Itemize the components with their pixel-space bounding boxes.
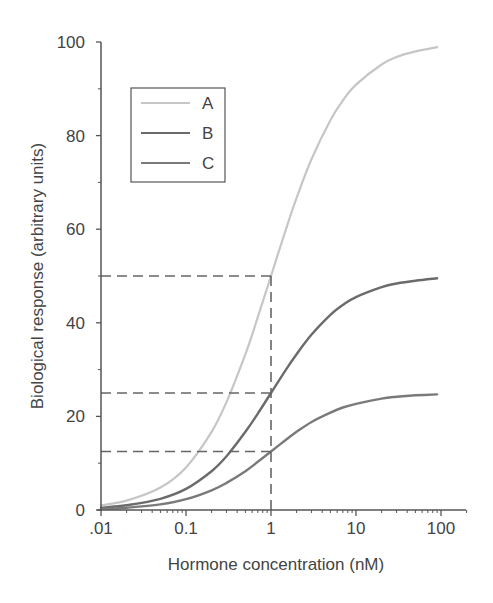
y-axis-label: Biological response (arbitrary units)	[28, 143, 47, 409]
y-tick-label: 0	[76, 501, 85, 520]
legend: A B C	[131, 88, 225, 182]
axes: 020406080100 .010.1110100	[57, 33, 467, 538]
y-tick-label: 40	[66, 314, 85, 333]
legend-label-c: C	[202, 154, 214, 173]
y-tick-label: 60	[66, 220, 85, 239]
legend-label-b: B	[202, 124, 213, 143]
x-ticks: .010.1110100	[89, 510, 466, 538]
y-tick-label: 100	[57, 33, 85, 52]
legend-label-a: A	[202, 94, 214, 113]
y-ticks: 020406080100	[57, 33, 101, 520]
y-tick-label: 20	[66, 407, 85, 426]
x-tick-label: 1	[266, 519, 275, 538]
x-axis-label: Hormone concentration (nM)	[168, 555, 384, 574]
y-tick-label: 80	[66, 127, 85, 146]
x-tick-label: .01	[89, 519, 113, 538]
x-tick-label: 0.1	[174, 519, 198, 538]
dashed-reference-lines	[101, 276, 271, 510]
x-tick-label: 100	[427, 519, 455, 538]
dose-response-chart: 020406080100 .010.1110100 Hormone concen…	[0, 0, 493, 603]
x-tick-label: 10	[347, 519, 366, 538]
